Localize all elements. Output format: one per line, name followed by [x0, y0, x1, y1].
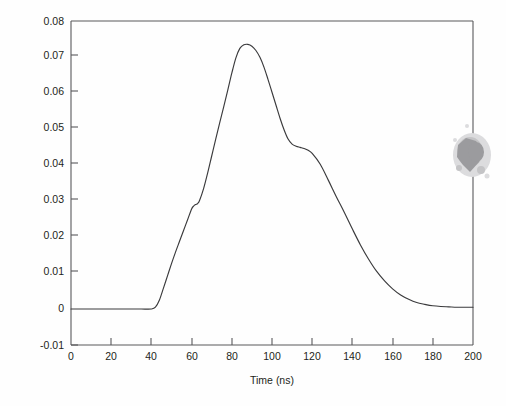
x-axis-title: Time (ns): [250, 374, 294, 386]
y-tick-label--0.01: -0.01: [40, 339, 64, 351]
y-tick-label-0.06: 0.06: [44, 85, 65, 97]
y-axis-tick-labels: 0.08 0.07 0.06 0.05 0.04 0.03 0.02 0.01 …: [40, 15, 64, 351]
x-tick-label-140: 140: [343, 350, 361, 362]
x-tick-label-200: 200: [464, 350, 482, 362]
y-tick-label-0.03: 0.03: [44, 193, 65, 205]
x-tick-label-180: 180: [424, 350, 442, 362]
x-tick-label-120: 120: [303, 350, 321, 362]
x-tick-label-100: 100: [263, 350, 281, 362]
axes-frame: [71, 21, 473, 345]
x-tick-label-0: 0: [68, 350, 74, 362]
y-tick-label-0: 0: [58, 302, 64, 314]
waveform-curve: [71, 44, 473, 309]
x-tick-label-40: 40: [145, 350, 157, 362]
y-axis-ticks: [71, 55, 78, 345]
y-tick-label-0.02: 0.02: [44, 229, 65, 241]
x-axis-tick-labels: 0 20 40 60 80 100 120 140 160 180 200: [68, 350, 482, 362]
figure-container: 0.08 0.07 0.06 0.05 0.04 0.03 0.02 0.01 …: [0, 0, 506, 406]
curve-group: [71, 44, 473, 309]
x-axis-ticks: [111, 338, 433, 345]
y-tick-label-0.08: 0.08: [44, 15, 65, 27]
x-tick-label-160: 160: [384, 350, 402, 362]
x-tick-label-60: 60: [186, 350, 198, 362]
y-tick-label-0.05: 0.05: [44, 121, 65, 133]
x-tick-label-20: 20: [105, 350, 117, 362]
y-tick-label-0.01: 0.01: [44, 265, 65, 277]
chart-plot: 0.08 0.07 0.06 0.05 0.04 0.03 0.02 0.01 …: [0, 0, 506, 406]
scan-smudge: [453, 124, 491, 179]
x-tick-label-80: 80: [226, 350, 238, 362]
y-tick-label-0.07: 0.07: [44, 49, 65, 61]
y-tick-label-0.04: 0.04: [44, 157, 65, 169]
